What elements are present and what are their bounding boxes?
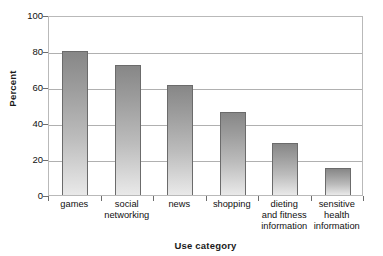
bar xyxy=(167,85,193,195)
x-tick-label-line: networking xyxy=(101,210,154,221)
bar-chart-figure: Percent 020406080100 gamessocialnetworki… xyxy=(0,0,383,256)
x-tick-label-line: shopping xyxy=(206,199,259,210)
x-tick-label-line: and fitness xyxy=(258,210,311,221)
bars-group xyxy=(49,17,362,195)
y-tick-mark xyxy=(43,52,48,53)
y-tick-mark xyxy=(43,88,48,89)
bar xyxy=(325,168,351,195)
x-tick-label-line: information xyxy=(311,221,364,232)
y-tick-label: 40 xyxy=(16,119,43,129)
y-tick-label: 100 xyxy=(16,11,43,21)
x-tick-label: dietingand fitnessinformation xyxy=(258,199,311,233)
x-tick-label-line: news xyxy=(153,199,206,210)
bar xyxy=(115,65,141,195)
bar xyxy=(220,112,246,195)
bar xyxy=(272,143,298,195)
x-tick-label-line: sensitive xyxy=(311,199,364,210)
y-tick-label: 60 xyxy=(16,83,43,93)
x-tick-label-line: dieting xyxy=(258,199,311,210)
y-tick-mark xyxy=(43,124,48,125)
bar xyxy=(62,51,88,195)
x-tick-label: games xyxy=(48,199,101,210)
y-tick-label: 0 xyxy=(16,191,43,201)
x-axis-tick-labels: gamessocialnetworkingnewsshoppingdieting… xyxy=(48,199,363,241)
x-tick-label: sensitivehealthinformation xyxy=(311,199,364,233)
y-tick-mark xyxy=(43,16,48,17)
x-tick-label: shopping xyxy=(206,199,259,210)
plot-area xyxy=(48,16,363,196)
x-axis-title: Use category xyxy=(48,240,363,251)
y-tick-mark xyxy=(43,160,48,161)
x-tick-label: socialnetworking xyxy=(101,199,154,221)
y-tick-label: 20 xyxy=(16,155,43,165)
x-tick-label-line: social xyxy=(101,199,154,210)
x-tick-mark xyxy=(363,196,364,201)
y-axis-tick-labels: 020406080100 xyxy=(16,0,43,256)
x-tick-label-line: information xyxy=(258,221,311,232)
x-tick-label-line: games xyxy=(48,199,101,210)
x-tick-label: news xyxy=(153,199,206,210)
y-tick-label: 80 xyxy=(16,47,43,57)
x-tick-label-line: health xyxy=(311,210,364,221)
